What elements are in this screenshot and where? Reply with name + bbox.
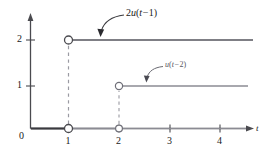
y-tick-label-1: 1: [17, 80, 22, 90]
x-tick-label-2: 2: [116, 136, 121, 146]
leader-arrowhead-u: [144, 75, 150, 82]
step-function-figure: 0 2 1 1 2 3 4 t 2u(t−1) u(t−2): [0, 0, 269, 154]
plot-canvas: [0, 0, 269, 154]
axis-origin-label: 0: [19, 131, 24, 141]
annotation-u-close-paren: ): [183, 60, 186, 69]
leader-arrowhead-2u: [97, 29, 104, 37]
y-axis-arrowhead: [28, 13, 34, 21]
leader-line-u: [147, 67, 163, 78]
u2-open-marker-top: [115, 82, 122, 89]
annotation-2u-operator: −: [142, 7, 149, 18]
x-tick-label-1: 1: [66, 136, 71, 146]
x-axis-name-label: t: [256, 124, 259, 133]
annotation-2u-close-paren: ): [154, 7, 157, 18]
x-tick-label-4: 4: [217, 136, 222, 146]
u1-open-marker-bottom: [65, 125, 73, 133]
series-u-t-minus-2: [69, 82, 249, 131]
annotation-arrows: [97, 15, 163, 83]
x-axis-arrowhead: [246, 126, 254, 132]
y-tick-label-2: 2: [17, 34, 22, 44]
leader-line-2u: [102, 15, 125, 31]
x-tick-label-3: 3: [167, 136, 172, 146]
axes-group: [26, 13, 254, 133]
annotation-label-u-t-minus-2: u(t−2): [165, 61, 186, 69]
annotation-label-2u-t-minus-1: 2u(t−1): [126, 8, 157, 18]
u2-open-marker-bottom: [116, 125, 123, 132]
u1-open-marker-top: [65, 36, 73, 44]
series-2u-t-minus-1: [31, 36, 253, 133]
